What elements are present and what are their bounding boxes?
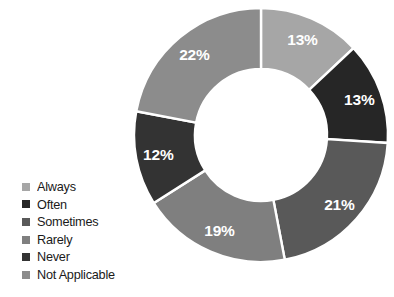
- legend-swatch-icon: [22, 236, 30, 244]
- legend-item-label: Never: [37, 250, 70, 264]
- donut-slice-label: 22%: [179, 46, 210, 63]
- legend-swatch-icon: [22, 200, 30, 208]
- legend-swatch-icon: [22, 183, 30, 191]
- donut-chart-figure: 13%13%21%19%12%22% AlwaysOftenSometimesR…: [0, 0, 394, 297]
- legend-item-label: Always: [37, 180, 76, 194]
- donut-slice-label: 12%: [143, 146, 174, 163]
- legend-item[interactable]: Never: [22, 248, 154, 266]
- donut-slice[interactable]: [136, 8, 261, 123]
- donut-slice-label: 13%: [344, 91, 375, 108]
- legend-swatch-icon: [22, 218, 30, 226]
- legend-item[interactable]: Sometimes: [22, 213, 154, 231]
- legend-swatch-icon: [22, 253, 30, 261]
- legend-item-label: Not Applicable: [37, 268, 115, 282]
- legend-item-label: Sometimes: [37, 215, 98, 229]
- legend-item[interactable]: Not Applicable: [22, 266, 154, 284]
- chart-legend: AlwaysOftenSometimesRarelyNeverNot Appli…: [22, 178, 154, 284]
- donut-slice-label: 13%: [287, 31, 318, 48]
- legend-item-label: Rarely: [37, 233, 72, 247]
- legend-item[interactable]: Often: [22, 196, 154, 214]
- legend-item-label: Often: [37, 198, 67, 212]
- legend-item[interactable]: Rarely: [22, 231, 154, 249]
- donut-slice-label: 19%: [204, 222, 235, 239]
- donut-slice-label: 21%: [324, 196, 355, 213]
- legend-item[interactable]: Always: [22, 178, 154, 196]
- legend-swatch-icon: [22, 271, 30, 279]
- donut-slices-group: [134, 8, 388, 262]
